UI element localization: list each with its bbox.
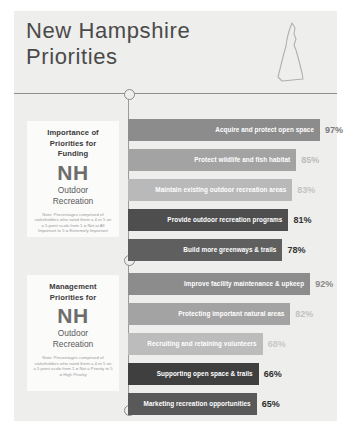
- bar-value: 83%: [297, 185, 315, 195]
- bar: Build more greenways & trails: [128, 239, 282, 261]
- bar-label: Protecting important natural areas: [178, 310, 284, 318]
- info-card-heading: Importance of Priorities for Funding: [32, 128, 114, 160]
- bar-value: 68%: [268, 339, 286, 349]
- bar-value: 92%: [315, 279, 333, 289]
- info-card-subtitle: Outdoor Recreation: [32, 328, 114, 350]
- bar: Recruiting and retaining volunteers: [128, 333, 263, 355]
- bar-label: Marketing recreation opportunities: [144, 400, 251, 408]
- infographic-page: New Hampshire Priorities Importance of P…: [0, 0, 346, 442]
- bar: Marketing recreation opportunities: [128, 393, 257, 415]
- info-card-note: Note: Percentages comprised of stakehold…: [32, 212, 114, 234]
- info-card-note: Note: Percentages comprised of stakehold…: [32, 355, 114, 377]
- bar-label: Supporting open space & trails: [157, 370, 253, 378]
- bar-value: 97%: [325, 125, 343, 135]
- bar-value: 82%: [295, 309, 313, 319]
- bar-row: Acquire and protect open space97%: [128, 119, 343, 141]
- bar-label: Improve facility maintenance & upkeep: [184, 280, 304, 288]
- bar-row: Recruiting and retaining volunteers68%: [128, 333, 286, 355]
- bar-value: 81%: [293, 215, 311, 225]
- bar-label: Build more greenways & trails: [183, 246, 276, 254]
- bar-label: Provide outdoor recreation programs: [167, 216, 282, 224]
- bar-value: 78%: [287, 245, 305, 255]
- info-card-management: Management Priorities for NH Outdoor Rec…: [27, 275, 119, 391]
- info-card-nh: NH: [32, 304, 114, 328]
- bar-value: 85%: [301, 155, 319, 165]
- bar: Acquire and protect open space: [128, 119, 320, 141]
- timeline-dot-top: [124, 89, 135, 100]
- header-divider: [14, 93, 337, 94]
- bar-label: Maintain existing outdoor recreation are…: [155, 186, 286, 194]
- bar-row: Protecting important natural areas82%: [128, 303, 313, 325]
- info-card-importance: Importance of Priorities for Funding NH …: [27, 121, 119, 237]
- bar: Provide outdoor recreation programs: [128, 209, 288, 231]
- bar: Protect wildlife and fish habitat: [128, 149, 296, 171]
- bar-row: Supporting open space & trails66%: [128, 363, 282, 385]
- bar-row: Provide outdoor recreation programs81%: [128, 209, 311, 231]
- bar-label: Protect wildlife and fish habitat: [194, 156, 290, 164]
- info-card-heading: Management Priorities for: [32, 282, 114, 303]
- bar-value: 66%: [264, 369, 282, 379]
- page-title: New Hampshire Priorities: [26, 18, 256, 70]
- info-card-subtitle: Outdoor Recreation: [32, 185, 114, 207]
- bar-row: Maintain existing outdoor recreation are…: [128, 179, 315, 201]
- new-hampshire-state-outline-icon: [262, 19, 318, 85]
- bar-label: Acquire and protect open space: [215, 126, 314, 134]
- bar: Protecting important natural areas: [128, 303, 290, 325]
- bar: Maintain existing outdoor recreation are…: [128, 179, 292, 201]
- page-panel: New Hampshire Priorities Importance of P…: [14, 11, 337, 421]
- bar: Supporting open space & trails: [128, 363, 259, 385]
- info-card-nh: NH: [32, 161, 114, 185]
- bar-label: Recruiting and retaining volunteers: [147, 340, 256, 348]
- bar-value: 65%: [262, 399, 280, 409]
- bar-row: Marketing recreation opportunities65%: [128, 393, 280, 415]
- bar-row: Improve facility maintenance & upkeep92%: [128, 273, 333, 295]
- header: New Hampshire Priorities: [14, 11, 337, 93]
- bar: Improve facility maintenance & upkeep: [128, 273, 310, 295]
- bar-row: Build more greenways & trails78%: [128, 239, 305, 261]
- bar-row: Protect wildlife and fish habitat85%: [128, 149, 319, 171]
